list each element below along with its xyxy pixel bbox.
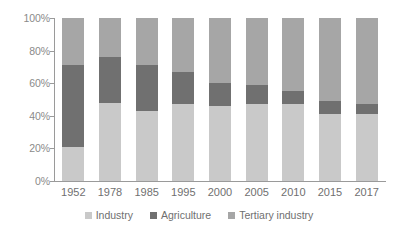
bar-segment [356,114,378,181]
bar-segment [209,18,231,83]
bar-segment [172,72,194,105]
bar-segment [209,83,231,106]
bar-segment [319,18,341,101]
bar-segment [246,85,268,105]
y-axis-tick-label: 20% [0,142,50,154]
x-axis-tick-label: 2017 [345,186,389,198]
bar-stack [99,18,121,181]
bar-stack [209,18,231,181]
y-axis-tick-label: 40% [0,110,50,122]
bar-segment [246,18,268,85]
bar-segment [172,18,194,72]
legend-item[interactable]: Industry [85,209,133,221]
legend-label: Agriculture [161,209,211,221]
legend-item[interactable]: Agriculture [150,209,211,221]
bar-segment [209,106,231,181]
bar-segment [99,18,121,57]
bar-segment [136,18,158,65]
legend-label: Industry [96,209,133,221]
bar-segment [172,104,194,181]
bar-segment [356,18,378,104]
bar-segment [62,65,84,147]
bar-segment [136,65,158,111]
y-axis-tick-label: 0% [0,175,50,187]
bar-stack [282,18,304,181]
stacked-bar-chart: 0%20%40%60%80%100% 195219781985199520002… [0,0,398,235]
bar-stack [62,18,84,181]
bar-stack [136,18,158,181]
legend-swatch-icon [85,212,92,219]
bar-segment [319,114,341,181]
bar-segment [99,57,121,103]
y-axis-tick-label: 60% [0,77,50,89]
bar-segment [356,104,378,114]
legend-label: Tertiary industry [239,209,313,221]
bar-segment [319,101,341,114]
legend-item[interactable]: Tertiary industry [228,209,313,221]
bar-segment [282,91,304,104]
chart-legend: IndustryAgricultureTertiary industry [0,209,398,221]
y-axis-tick-label: 100% [0,12,50,24]
bar-stack [319,18,341,181]
bar-stack [172,18,194,181]
bar-stack [246,18,268,181]
legend-swatch-icon [228,212,235,219]
bar-segment [99,103,121,181]
bar-segment [62,18,84,65]
x-axis-line [54,181,386,182]
bar-segment [282,18,304,91]
bar-segment [136,111,158,181]
bar-segment [246,104,268,181]
y-axis-tick-label: 80% [0,45,50,57]
bar-segment [282,104,304,181]
bar-segment [62,147,84,181]
plot-area [55,18,385,181]
bar-stack [356,18,378,181]
legend-swatch-icon [150,212,157,219]
y-axis-tick-mark [50,181,55,182]
